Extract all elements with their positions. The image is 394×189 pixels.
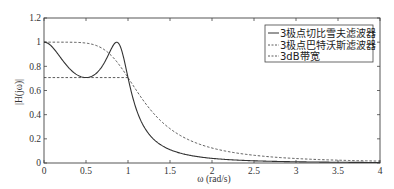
y-tick-label: 0.8	[29, 62, 41, 72]
x-tick-label: 3.5	[332, 166, 344, 176]
y-tick-label: 0.2	[29, 134, 41, 144]
legend-item-chebyshev: 3极点切比雪夫滤波器	[268, 27, 376, 39]
y-axis-label: |H(jω)|	[14, 79, 25, 105]
x-tick-label: 1.5	[164, 166, 176, 176]
x-tick-label: 2.5	[248, 166, 260, 176]
x-tick-label: 0.5	[80, 166, 92, 176]
frequency-response-chart: 00.511.522.533.5400.20.40.60.811.2 ω (ra…	[0, 0, 394, 189]
y-tick-label: 0	[36, 158, 41, 168]
legend: 3极点切比雪夫滤波器 3极点巴特沃斯滤波器 3dB带宽	[265, 25, 376, 62]
y-tick-label: 0.4	[29, 110, 41, 120]
x-tick-label: 4	[378, 166, 383, 176]
x-tick-label: 3	[294, 166, 299, 176]
x-tick-label: 1	[126, 166, 131, 176]
legend-label: 3极点切比雪夫滤波器	[280, 27, 376, 39]
y-tick-label: 1.2	[29, 13, 41, 23]
legend-label: 3极点巴特沃斯滤波器	[280, 39, 376, 51]
legend-item-butterworth: 3极点巴特沃斯滤波器	[268, 39, 376, 51]
x-axis-label: ω (rad/s)	[197, 174, 230, 185]
y-tick-label: 0.6	[29, 86, 41, 96]
x-tick-label: 0	[42, 166, 47, 176]
y-tick-label: 1	[36, 37, 41, 47]
legend-label: 3dB带宽	[280, 50, 320, 62]
